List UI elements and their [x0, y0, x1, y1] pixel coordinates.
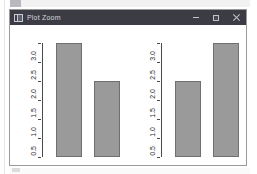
bar-woman	[94, 81, 120, 157]
maximize-icon	[213, 15, 219, 21]
bar-woman	[175, 81, 201, 157]
y-axis-tick-label: 3.0	[30, 51, 37, 60]
y-axis-tick	[38, 138, 41, 139]
y-axis-tick	[157, 62, 160, 63]
close-icon	[232, 14, 240, 22]
window-titlebar[interactable]: Plot Zoom	[10, 10, 246, 25]
y-axis-tick-label: 0.5	[30, 146, 37, 155]
y-axis-tick	[38, 100, 41, 101]
y-axis-tick	[38, 119, 41, 120]
y-axis-tick	[38, 43, 41, 44]
plot-zoom-window: Plot Zoom 0.00.51.01.52.02.53.0 manwoman…	[9, 9, 247, 166]
y-axis-tick-label: 2.5	[149, 70, 156, 79]
y-axis-tick-label: 2.0	[149, 89, 156, 98]
window-controls	[186, 10, 246, 25]
bar-man	[56, 43, 82, 157]
y-axis-tick	[157, 138, 160, 139]
y-axis-spine	[42, 43, 43, 157]
y-axis-tick-label: 3.0	[149, 51, 156, 60]
y-axis-tick	[157, 100, 160, 101]
y-axis-tick-label: 1.5	[30, 108, 37, 117]
plot-canvas: 0.00.51.01.52.02.53.0 manwoman 0.00.51.0…	[10, 25, 246, 165]
y-axis-tick-label: 1.0	[149, 127, 156, 136]
y-axis-tick	[157, 81, 160, 82]
y-axis-spine	[161, 43, 162, 157]
y-axis-tick-label: 0.5	[149, 146, 156, 155]
window-title: Plot Zoom	[27, 10, 61, 25]
barplot-panel-left: 0.00.51.01.52.02.53.0 manwoman	[10, 25, 129, 165]
backdrop-tab	[10, 0, 21, 7]
y-axis-tick	[38, 81, 41, 82]
y-axis-tick	[38, 157, 41, 158]
backdrop-bottom-strip	[10, 168, 250, 174]
plot-window-icon	[14, 14, 23, 22]
minimize-icon	[193, 17, 199, 18]
bar-man	[213, 43, 239, 157]
y-axis-tick-label: 1.0	[30, 127, 37, 136]
maximize-button[interactable]	[206, 10, 226, 25]
y-axis-tick-label: 2.5	[30, 70, 37, 79]
y-axis-tick-label: 1.5	[149, 108, 156, 117]
y-axis-tick-label: 2.0	[30, 89, 37, 98]
y-axis-tick	[157, 43, 160, 44]
barplot-panel-right: 0.00.51.01.52.02.53.0 womanman	[129, 25, 246, 165]
close-button[interactable]	[226, 10, 246, 25]
y-axis-tick	[157, 119, 160, 120]
minimize-button[interactable]	[186, 10, 206, 25]
y-axis-tick	[38, 62, 41, 63]
y-axis-tick	[157, 157, 160, 158]
backdrop-left-edge	[4, 0, 5, 174]
backdrop-bottom-mark	[12, 168, 20, 172]
backdrop-strip	[10, 0, 250, 7]
